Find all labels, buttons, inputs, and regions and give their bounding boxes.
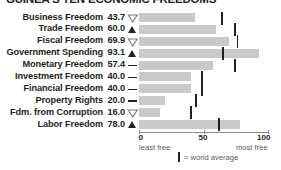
score-bar [139, 84, 191, 93]
freedom-label: Trade Freedom [38, 23, 103, 33]
axis-tick-label: 100 [257, 133, 270, 142]
freedom-score: 78.0 [101, 119, 125, 129]
score-bar [139, 49, 259, 58]
axis-least-free-label: least free [139, 143, 170, 152]
trend-up-icon [127, 48, 139, 59]
freedom-score: 60.0 [101, 23, 125, 33]
world-average-tick-icon [178, 152, 180, 162]
freedom-label: Business Freedom [22, 12, 103, 22]
trend-flat-icon [127, 71, 139, 82]
legend-label: = world average [184, 153, 238, 162]
trend-up-icon [127, 119, 139, 130]
chart-title: GUINEA'S TEN ECONOMIC FREEDOMS [6, 0, 281, 5]
score-bar [139, 25, 216, 34]
trend-flat-icon [127, 95, 139, 106]
world-average-tick [190, 106, 192, 119]
freedom-label: Investment Freedom [15, 71, 103, 81]
freedom-label: Fdm. from Corruption [10, 107, 103, 117]
freedom-label: Property Rights [36, 95, 103, 105]
freedom-score: 16.0 [101, 107, 125, 117]
freedom-score: 93.1 [101, 47, 125, 57]
trend-down-icon [127, 107, 139, 118]
world-average-tick [201, 83, 203, 96]
trend-up-icon [127, 24, 139, 35]
trend-flat-icon [127, 60, 139, 71]
score-bar [139, 37, 229, 46]
freedom-score: 43.7 [101, 12, 125, 22]
axis-tick-label: 50 [199, 133, 208, 142]
freedom-label: Fiscal Freedom [37, 35, 103, 45]
world-average-tick [221, 12, 223, 25]
freedom-score: 69.9 [101, 35, 125, 45]
axis-most-free-label: most free [236, 143, 268, 152]
freedom-label: Financial Freedom [24, 83, 103, 93]
score-bar [139, 61, 213, 70]
freedom-score: 40.0 [101, 71, 125, 81]
plot-area [139, 12, 268, 130]
world-average-tick [234, 59, 236, 72]
trend-down-icon [127, 36, 139, 47]
freedom-label: Labor Freedom [37, 119, 103, 129]
freedom-score: 20.0 [101, 95, 125, 105]
score-bar [139, 13, 195, 22]
world-average-tick [195, 94, 197, 107]
freedom-label: Monetary Freedom [22, 59, 103, 69]
score-bar [139, 72, 191, 81]
freedom-label: Government Spending [6, 47, 103, 57]
world-average-tick [218, 118, 220, 131]
trend-down-icon [127, 12, 139, 23]
freedom-score: 40.0 [101, 83, 125, 93]
score-bar [139, 120, 240, 129]
economic-freedoms-chart: GUINEA'S TEN ECONOMIC FREEDOMS Business … [0, 0, 281, 170]
score-bar [139, 108, 160, 117]
freedom-score: 57.4 [101, 59, 125, 69]
world-average-tick [237, 35, 239, 48]
trend-flat-icon [127, 83, 139, 94]
axis-tick-label: 0 [139, 133, 143, 142]
world-average-tick [222, 47, 224, 60]
score-bar [139, 96, 165, 105]
